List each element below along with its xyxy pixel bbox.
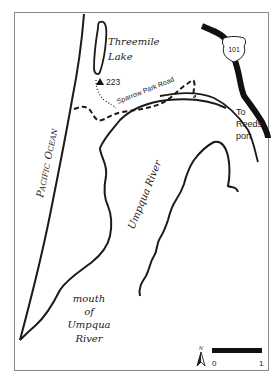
coastline (20, 14, 84, 340)
to-reedsport-line2: Reeds- (236, 119, 265, 129)
threemile-lake (94, 22, 106, 74)
lake-label-line2: Lake (107, 51, 133, 62)
map-canvas: 101 223 Threemile Lake Sparrow Park Road… (0, 0, 279, 386)
mouth-label-line2: of (84, 306, 96, 317)
road-label: Sparrow Park Road (116, 76, 176, 106)
scale-end-label: 1 (259, 359, 264, 368)
ocean-label-acific: ACIFIC (37, 162, 52, 193)
scale-start-label: 0 (212, 359, 217, 368)
elevation-label: 223 (106, 77, 120, 87)
ocean-label-cean: CEAN (46, 127, 60, 152)
trailhead-triangle-icon (96, 78, 104, 85)
to-reedsport-line1: To (236, 107, 246, 117)
mouth-label-line4: River (74, 333, 103, 344)
highway-number: 101 (228, 46, 240, 53)
mouth-label-line1: mouth (73, 293, 105, 304)
mouth-label-line3: Umpqua (67, 319, 110, 330)
scale-bar (212, 348, 262, 353)
north-label: N (198, 345, 204, 351)
river-label: Umpqua River (126, 157, 164, 230)
lake-label-line1: Threemile (108, 36, 160, 47)
to-reedsport-line3: port (236, 131, 252, 141)
